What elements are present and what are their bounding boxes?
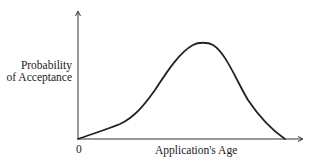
y-axis-label-line1: Probability: [21, 59, 72, 71]
y-axis-label-line2: of Acceptance: [7, 71, 72, 83]
origin-label: 0: [76, 143, 82, 155]
x-axis-label: Application's Age: [155, 144, 237, 156]
acceptance-curve: [78, 43, 285, 139]
x-axis: [78, 137, 303, 142]
y-axis: [76, 11, 81, 139]
